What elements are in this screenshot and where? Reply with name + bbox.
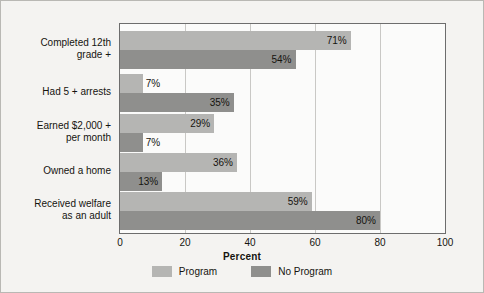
bar-value-label: 71%: [327, 36, 347, 46]
bar-value-label: 59%: [288, 197, 308, 207]
category-label-line: as an adult: [1, 210, 111, 222]
chart-container: 71%54%7%35%29%7%36%13%59%80% Completed 1…: [0, 0, 484, 293]
bar-value-label: 54%: [271, 55, 291, 65]
category-label: Had 5 + arrests: [1, 86, 111, 98]
category-label-line: Received welfare: [1, 198, 111, 210]
bar-no-program: 13%: [120, 172, 162, 191]
category-label-line: Earned $2,000 +: [1, 120, 111, 132]
legend-swatch: [251, 266, 271, 277]
bar-no-program: 7%: [120, 133, 143, 152]
category-label-line: Owned a home: [1, 165, 111, 177]
legend-item: No Program: [251, 266, 332, 277]
legend-label: No Program: [278, 266, 332, 277]
bar-group: 71%54%: [120, 31, 445, 69]
plot-area: 71%54%7%35%29%7%36%13%59%80%: [119, 23, 446, 234]
bar-group: 59%80%: [120, 192, 445, 230]
bar-program: 71%: [120, 31, 351, 50]
legend-swatch: [152, 266, 172, 277]
category-label: Completed 12thgrade +: [1, 37, 111, 61]
x-tick-60: 60: [309, 237, 320, 249]
bar-value-label: 29%: [190, 119, 210, 129]
x-tick-80: 80: [374, 237, 385, 249]
category-label-line: Had 5 + arrests: [1, 86, 111, 98]
bar-value-label: 35%: [210, 98, 230, 108]
bar-group: 29%7%: [120, 114, 445, 152]
category-label: Received welfareas an adult: [1, 198, 111, 222]
bar-program: 59%: [120, 192, 312, 211]
bar-program: 36%: [120, 153, 237, 172]
bar-program: 7%: [120, 74, 143, 93]
category-label: Owned a home: [1, 165, 111, 177]
bar-value-label: 36%: [213, 158, 233, 168]
bar-value-label: 80%: [356, 216, 376, 226]
bar-value-label: 7%: [146, 79, 160, 89]
x-tick-100: 100: [437, 237, 454, 249]
bar-value-label: 7%: [146, 138, 160, 148]
bar-program: 29%: [120, 114, 214, 133]
legend-label: Program: [179, 266, 217, 277]
bar-no-program: 35%: [120, 93, 234, 112]
bar-no-program: 54%: [120, 50, 296, 69]
x-tick-0: 0: [117, 237, 123, 249]
x-tick-40: 40: [244, 237, 255, 249]
category-label-line: per month: [1, 132, 111, 144]
legend-item: Program: [152, 266, 217, 277]
bar-group: 7%35%: [120, 74, 445, 112]
category-label-line: Completed 12th: [1, 37, 111, 49]
bar-value-label: 13%: [138, 177, 158, 187]
category-label-line: grade +: [1, 49, 111, 61]
x-axis-title: Percent: [1, 251, 483, 262]
chart-legend: ProgramNo Program: [1, 266, 483, 277]
bar-no-program: 80%: [120, 211, 380, 230]
bar-group: 36%13%: [120, 153, 445, 191]
x-tick-20: 20: [179, 237, 190, 249]
category-label: Earned $2,000 +per month: [1, 120, 111, 144]
